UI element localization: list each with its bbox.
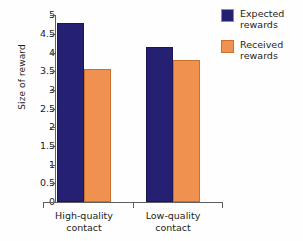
bar-chart-figure: Size of reward 5 4.5 4 3.5 3 2.5 2 1.5 1… bbox=[0, 0, 303, 241]
legend-swatch-icon-received bbox=[221, 40, 234, 53]
x-tick-mark bbox=[222, 203, 223, 208]
legend-label-expected: Expected rewards bbox=[240, 8, 284, 30]
y-axis-ticks: 5 4.5 4 3.5 3 2.5 2 1.5 1 0.5 0 bbox=[0, 0, 55, 241]
x-category-label-high-quality: High-quality contact bbox=[36, 210, 132, 233]
x-tick-mark bbox=[133, 203, 134, 208]
chart-legend: Expected rewards Received rewards bbox=[221, 8, 303, 70]
y-tick-label: 0.5 bbox=[9, 178, 55, 188]
bar-received-high-quality bbox=[84, 69, 111, 202]
y-tick-label: 3.5 bbox=[9, 66, 55, 76]
bar-expected-low-quality bbox=[146, 47, 173, 202]
bar-expected-high-quality bbox=[57, 23, 84, 203]
x-category-label-line2: contact bbox=[36, 222, 132, 234]
legend-item-received-rewards: Received rewards bbox=[221, 39, 303, 61]
x-category-label-line1: High-quality bbox=[55, 210, 113, 221]
x-category-label-low-quality: Low-quality contact bbox=[125, 210, 221, 233]
legend-label-line2: rewards bbox=[240, 50, 283, 61]
legend-label-line2: rewards bbox=[240, 19, 284, 30]
plot-area bbox=[56, 15, 222, 202]
y-tick-label: 1 bbox=[9, 160, 55, 170]
y-tick-label: 4 bbox=[9, 48, 55, 58]
y-tick-label: 2.5 bbox=[9, 104, 55, 114]
x-category-label-line2: contact bbox=[125, 222, 221, 234]
x-tick-mark bbox=[43, 203, 44, 208]
legend-label-line1: Received bbox=[240, 39, 283, 50]
legend-item-expected-rewards: Expected rewards bbox=[221, 8, 303, 30]
legend-label-received: Received rewards bbox=[240, 39, 283, 61]
y-tick-label: 1.5 bbox=[9, 141, 55, 151]
bar-received-low-quality bbox=[173, 60, 200, 202]
legend-label-line1: Expected bbox=[240, 8, 284, 19]
y-tick-label: 2 bbox=[9, 122, 55, 132]
legend-swatch-icon-expected bbox=[221, 9, 234, 22]
y-tick-label: 3 bbox=[9, 85, 55, 95]
y-tick-label: 5 bbox=[9, 10, 55, 20]
y-tick-label: 4.5 bbox=[9, 29, 55, 39]
x-category-label-line1: Low-quality bbox=[146, 210, 201, 221]
